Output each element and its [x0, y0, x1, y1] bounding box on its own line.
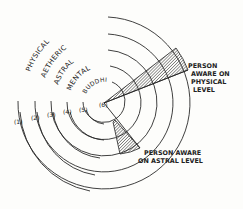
svg-text:LEVEL: LEVEL: [193, 86, 215, 94]
level-number-6: (6): [99, 101, 108, 108]
level-number-5: (5): [79, 106, 88, 113]
svg-text:PHYSICAL: PHYSICAL: [191, 78, 226, 86]
svg-text:PERSON AWARE: PERSON AWARE: [144, 149, 201, 157]
level-number-3: (3): [47, 111, 56, 118]
astral-annotation: PERSON AWARE ON ASTRAL LEVEL: [138, 149, 203, 165]
level-number-2: (2): [31, 114, 40, 121]
svg-text:AWARE ON: AWARE ON: [191, 70, 230, 78]
physical-annotation: PERSON AWARE ON PHYSICAL LEVEL: [188, 62, 230, 94]
svg-text:ON ASTRAL LEVEL: ON ASTRAL LEVEL: [138, 157, 203, 165]
svg-text:PERSON: PERSON: [188, 62, 217, 70]
level-number-1: (1): [14, 118, 23, 125]
physical-awareness-wedge: [104, 48, 188, 103]
level-number-4: (4): [63, 108, 72, 115]
consciousness-levels-diagram: PHYSICAL AETHERIC ASTRAL MENTAL BUDDHIC …: [0, 0, 243, 209]
